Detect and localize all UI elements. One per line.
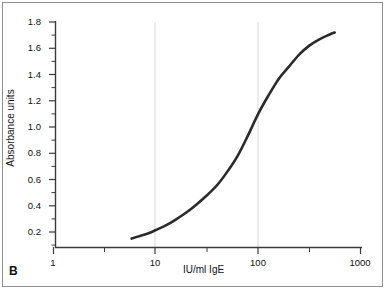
y-tick-label-1-6: 1.6 [11, 43, 41, 53]
y-axis-title: Absorbance units [5, 68, 17, 188]
panel-label: B [9, 264, 18, 278]
x-tick-label-1: 1 [33, 258, 73, 268]
x-tick-label-10: 10 [135, 258, 175, 268]
axis-lines [55, 21, 362, 248]
y-tick-label-1-8: 1.8 [11, 17, 41, 27]
chart-plot-area [0, 0, 387, 291]
y-tick-label-0-2: 0.2 [11, 227, 41, 237]
x-axis-title: IU/ml IgE [183, 264, 224, 276]
gridlines [155, 22, 258, 247]
figure-panel: 1.8 1.6 1.4 1.2 1.0 0.8 0.6 0.4 0.2 1 10… [0, 0, 387, 291]
y-axis-major-ticks [49, 22, 55, 232]
data-series-line [132, 33, 335, 239]
y-tick-label-0-4: 0.4 [11, 201, 41, 211]
x-tick-label-1000: 1000 [340, 258, 380, 268]
x-tick-label-100: 100 [238, 258, 278, 268]
y-axis-minor-ticks [52, 35, 56, 245]
